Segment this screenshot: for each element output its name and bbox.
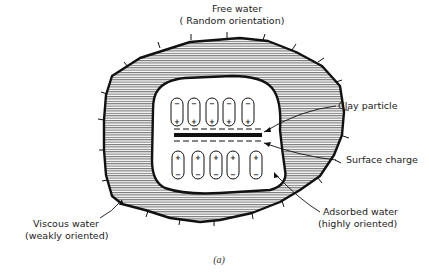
svg-text:−: − [209, 100, 215, 108]
svg-text:−: − [213, 171, 219, 179]
viscous-water-sublabel: (weakly oriented) [25, 230, 108, 241]
svg-text:−: − [191, 100, 197, 108]
svg-text:+: + [175, 154, 181, 162]
svg-text:+: + [226, 118, 232, 126]
svg-text:+: + [253, 154, 259, 162]
free-water-label: Free water [212, 3, 262, 14]
viscous-water-label: Viscous water [33, 218, 99, 229]
adsorbed-water-label: Adsorbed water [323, 206, 398, 217]
svg-text:−: − [253, 171, 259, 179]
svg-text:−: − [245, 100, 251, 108]
svg-text:+: + [209, 118, 215, 126]
adsorbed-water-sublabel: (highly oriented) [318, 218, 397, 229]
svg-text:−: − [195, 171, 201, 179]
svg-text:−: − [226, 100, 232, 108]
svg-text:+: + [195, 154, 201, 162]
surface-charge-label: Surface charge [346, 154, 418, 165]
svg-text:+: + [230, 154, 236, 162]
clay-particle-label: Clay particle [338, 100, 398, 111]
free-water-sublabel: ( Random orientation) [180, 15, 285, 26]
svg-text:+: + [174, 118, 180, 126]
svg-text:+: + [245, 118, 251, 126]
clay-water-diagram: − + − + − + − + − + [0, 0, 429, 280]
svg-text:+: + [191, 118, 197, 126]
svg-text:−: − [174, 100, 180, 108]
svg-text:+: + [213, 154, 219, 162]
svg-text:−: − [230, 171, 236, 179]
svg-text:−: − [175, 171, 181, 179]
figure-caption: (a) [213, 254, 225, 266]
